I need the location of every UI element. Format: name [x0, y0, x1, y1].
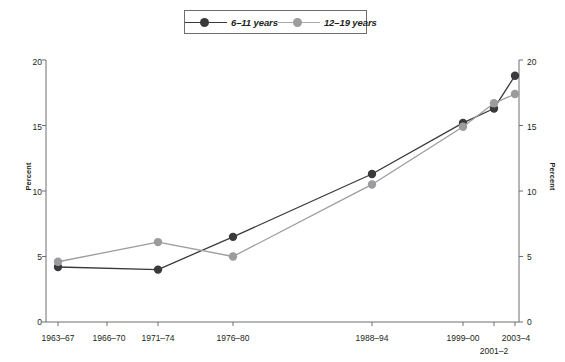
data-point: [368, 180, 376, 188]
data-point: [54, 258, 62, 266]
series-line: [58, 94, 515, 262]
chart-plot-area: [0, 0, 565, 362]
data-point: [154, 238, 162, 246]
data-point: [511, 72, 519, 80]
data-point: [490, 99, 498, 107]
data-point: [368, 170, 376, 178]
series-light: [54, 90, 519, 266]
data-point: [459, 123, 467, 131]
series-line: [58, 76, 515, 270]
data-point: [229, 252, 237, 260]
axis-ticks: [42, 60, 523, 326]
chart-figure: 6–11 years 12–19 years Percent Percent 0…: [0, 0, 565, 362]
series-layer: [54, 72, 519, 274]
data-point: [229, 233, 237, 241]
data-point: [154, 265, 162, 273]
data-point: [511, 90, 519, 98]
axis-lines: [46, 60, 519, 322]
series-dark: [54, 72, 519, 274]
